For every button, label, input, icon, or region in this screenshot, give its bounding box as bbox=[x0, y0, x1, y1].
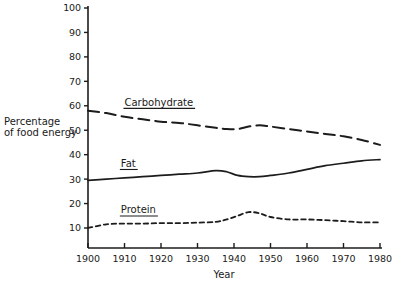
y-axis-title-line2: of food energy bbox=[4, 127, 77, 138]
y-tick-label: 90 bbox=[69, 27, 81, 38]
series-inline-labels: CarbohydrateFatProtein bbox=[120, 97, 195, 216]
y-tick-labels: 102030405060708090100 bbox=[63, 2, 81, 233]
x-tick-labels: 190019101920193019401950196019701980 bbox=[76, 253, 392, 264]
x-axis-title: Year bbox=[212, 269, 235, 280]
x-tick-label: 1960 bbox=[295, 253, 319, 264]
y-tick-label: 40 bbox=[69, 149, 81, 160]
series-line-carbohydrate bbox=[88, 111, 380, 145]
x-tick-label: 1970 bbox=[332, 253, 356, 264]
x-axis-group: 190019101920193019401950196019701980 bbox=[76, 243, 392, 264]
x-tick-label: 1920 bbox=[149, 253, 173, 264]
series-label-carbohydrate: Carbohydrate bbox=[125, 97, 194, 108]
food-energy-line-chart: 102030405060708090100 190019101920193019… bbox=[0, 0, 396, 290]
x-tick-label: 1940 bbox=[222, 253, 246, 264]
x-tick-label: 1980 bbox=[368, 253, 392, 264]
y-tick-label: 20 bbox=[69, 198, 81, 209]
y-tick-label: 80 bbox=[69, 51, 81, 62]
x-tick-label: 1900 bbox=[76, 253, 100, 264]
chart-canvas: 102030405060708090100 190019101920193019… bbox=[0, 0, 396, 290]
y-tick-label: 70 bbox=[69, 76, 81, 87]
series-label-fat: Fat bbox=[121, 158, 136, 169]
series-label-protein: Protein bbox=[121, 204, 156, 215]
y-axis-group: 102030405060708090100 bbox=[63, 2, 88, 248]
x-tick-label: 1950 bbox=[259, 253, 283, 264]
y-tick-label: 100 bbox=[63, 2, 81, 13]
x-tick-label: 1930 bbox=[186, 253, 210, 264]
y-tick-label: 30 bbox=[69, 174, 81, 185]
y-axis-title-line1: Percentage bbox=[4, 116, 60, 127]
x-tick-label: 1910 bbox=[113, 253, 137, 264]
y-tick-label: 10 bbox=[69, 222, 81, 233]
y-tick-label: 60 bbox=[69, 100, 81, 111]
